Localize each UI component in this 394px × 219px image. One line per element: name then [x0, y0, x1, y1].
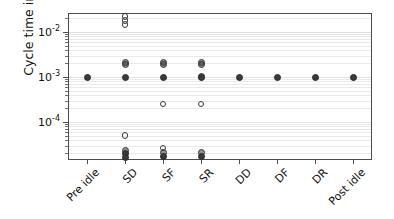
y-tick-minor	[65, 132, 68, 133]
y-tick-label: 10-2	[38, 24, 60, 39]
y-axis-label: Cycle time in s	[21, 0, 36, 100]
gridline	[69, 63, 371, 64]
gridline	[69, 108, 371, 109]
gridline	[69, 18, 371, 19]
gridline	[69, 101, 371, 102]
y-tick-major	[63, 77, 68, 78]
data-point	[198, 153, 205, 160]
gridline	[69, 77, 371, 78]
gridline	[69, 95, 371, 96]
data-point	[122, 154, 129, 161]
gridline	[69, 153, 371, 154]
data-point	[198, 61, 205, 68]
y-tick-minor	[65, 91, 68, 92]
gridline	[69, 129, 371, 130]
gridline	[69, 126, 371, 127]
y-tick-minor	[65, 146, 68, 147]
y-tick-major	[63, 32, 68, 33]
gridline	[69, 136, 371, 137]
data-point	[160, 74, 167, 81]
y-tick-minor	[65, 126, 68, 127]
gridline	[69, 140, 371, 141]
gridline	[69, 32, 371, 33]
data-point	[122, 74, 129, 81]
y-tick-label: 10-3	[38, 69, 60, 84]
gridline	[69, 87, 371, 88]
y-tick-minor	[65, 39, 68, 40]
gridline	[69, 81, 371, 82]
gridline	[69, 36, 371, 37]
y-tick-minor	[65, 79, 68, 80]
x-tick	[163, 160, 164, 164]
gridline	[69, 91, 371, 92]
y-tick-minor	[65, 50, 68, 51]
y-tick-minor	[65, 36, 68, 37]
y-tick-minor	[65, 95, 68, 96]
y-tick-minor	[65, 84, 68, 85]
y-tick-minor	[65, 46, 68, 47]
gridline	[69, 122, 371, 123]
gridline	[69, 56, 371, 57]
gridline	[69, 146, 371, 147]
x-tick	[87, 160, 88, 164]
data-point	[312, 74, 319, 81]
data-point	[350, 74, 357, 81]
data-point	[160, 153, 167, 160]
gridline	[69, 124, 371, 125]
y-tick-minor	[65, 87, 68, 88]
y-tick-minor	[65, 63, 68, 64]
gridline	[69, 50, 371, 51]
data-point	[236, 74, 243, 81]
data-point	[198, 74, 205, 81]
y-tick-minor	[65, 140, 68, 141]
y-tick-major	[63, 122, 68, 123]
gridline	[69, 79, 371, 80]
x-tick	[277, 160, 278, 164]
y-tick-minor	[65, 153, 68, 154]
y-tick-minor	[65, 136, 68, 137]
y-tick-minor	[65, 101, 68, 102]
gridline	[69, 34, 371, 35]
x-tick	[315, 160, 316, 164]
x-tick	[201, 160, 202, 164]
gridline	[69, 42, 371, 43]
data-point	[122, 132, 129, 139]
gridline	[69, 46, 371, 47]
data-point	[84, 74, 91, 81]
data-point	[122, 61, 129, 68]
y-tick-minor	[65, 124, 68, 125]
y-tick-minor	[65, 18, 68, 19]
data-point	[160, 61, 167, 68]
data-point	[274, 74, 281, 81]
y-tick-minor	[65, 56, 68, 57]
y-tick-minor	[65, 108, 68, 109]
x-tick	[353, 160, 354, 164]
cycle-time-scatter-figure: Cycle time in s 10-210-310-4Pre idleSDSF…	[0, 0, 394, 219]
gridline	[69, 132, 371, 133]
y-tick-minor	[65, 81, 68, 82]
y-tick-minor	[65, 34, 68, 35]
x-tick	[239, 160, 240, 164]
gridline	[69, 39, 371, 40]
y-tick-minor	[65, 129, 68, 130]
y-tick-minor	[65, 42, 68, 43]
y-tick-label: 10-4	[38, 114, 60, 129]
gridline	[69, 84, 371, 85]
